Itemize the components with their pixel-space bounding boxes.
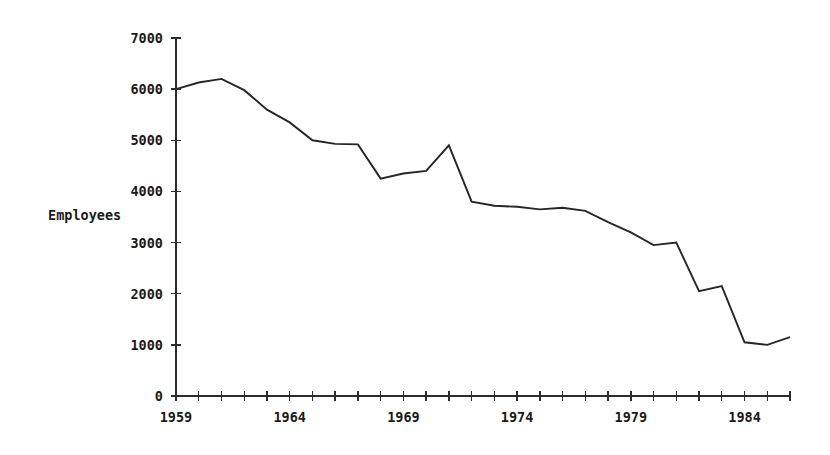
x-axis-tick-labels: 195919641969197419791984 [160, 409, 761, 425]
y-tick-label-4000: 4000 [130, 183, 163, 199]
y-axis-tick-labels: 01000200030004000500060007000 [130, 30, 163, 404]
x-tick-label-1969: 1969 [387, 409, 420, 425]
x-tick-label-1959: 1959 [160, 409, 193, 425]
y-tick-label-7000: 7000 [130, 30, 163, 46]
x-tick-label-1964: 1964 [273, 409, 306, 425]
y-tick-label-3000: 3000 [130, 235, 163, 251]
data-series-group [176, 79, 790, 345]
x-tick-label-1984: 1984 [728, 409, 761, 425]
y-axis-title: Employees [48, 207, 121, 223]
x-tick-label-1974: 1974 [501, 409, 534, 425]
y-tick-label-6000: 6000 [130, 81, 163, 97]
employees-line-series [176, 79, 790, 345]
y-tick-label-0: 0 [155, 388, 163, 404]
chart-container: 01000200030004000500060007000 1959196419… [0, 0, 830, 455]
x-tick-label-1979: 1979 [615, 409, 648, 425]
y-tick-label-1000: 1000 [130, 337, 163, 353]
y-tick-label-2000: 2000 [130, 286, 163, 302]
y-tick-label-5000: 5000 [130, 132, 163, 148]
line-chart: 01000200030004000500060007000 1959196419… [0, 0, 830, 455]
